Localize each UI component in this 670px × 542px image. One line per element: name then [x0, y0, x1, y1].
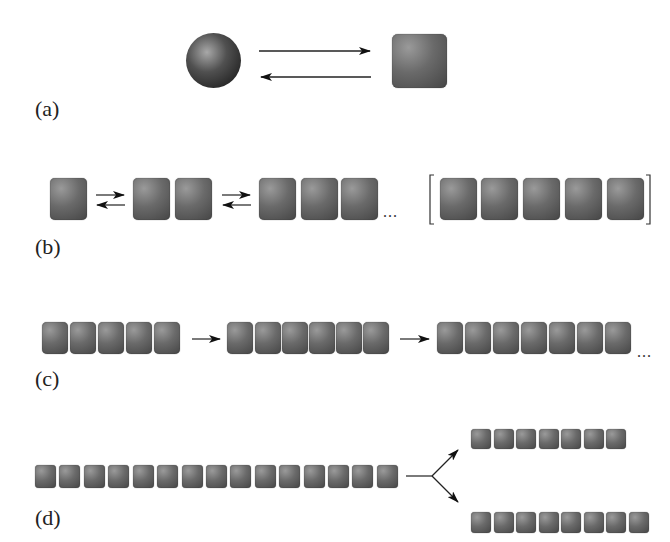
nucleus-brackets	[430, 175, 650, 224]
equilibrium-arrows-a	[259, 51, 371, 77]
equilibrium-arrows-b	[96, 195, 251, 205]
fragmentation-arrow-d	[406, 450, 458, 502]
arrows-layer	[0, 0, 670, 542]
